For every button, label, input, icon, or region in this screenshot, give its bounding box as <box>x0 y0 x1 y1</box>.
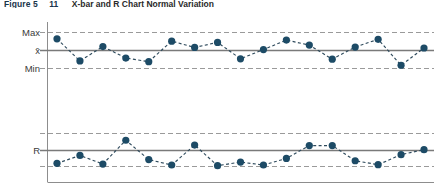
data-point <box>214 39 221 46</box>
data-point <box>306 142 313 149</box>
data-point <box>191 141 198 148</box>
data-point <box>237 55 244 62</box>
data-point <box>352 43 359 50</box>
xbar-series-markers <box>53 35 427 69</box>
data-point <box>122 137 129 144</box>
data-point <box>214 162 221 169</box>
data-point <box>260 161 267 168</box>
data-point <box>283 36 290 43</box>
data-point <box>375 36 382 43</box>
data-point <box>145 58 152 65</box>
xbar-chart-panel: Max x̄ Min <box>22 27 434 74</box>
control-chart-plot: Max x̄ Min R <box>0 0 436 193</box>
xbar-center-label: x̄ <box>35 45 40 56</box>
data-point <box>237 158 244 165</box>
data-point <box>145 156 152 163</box>
data-point <box>420 146 427 153</box>
data-point <box>99 160 106 167</box>
data-point <box>168 38 175 45</box>
r-chart-panel: R <box>33 134 434 170</box>
data-point <box>122 54 129 61</box>
data-point <box>329 142 336 149</box>
data-point <box>76 57 83 64</box>
data-point <box>329 56 336 63</box>
data-point <box>375 161 382 168</box>
data-point <box>397 151 404 158</box>
data-point <box>306 42 313 49</box>
data-point <box>352 157 359 164</box>
data-point <box>53 35 60 42</box>
data-point <box>283 155 290 162</box>
data-point <box>420 44 427 51</box>
r-center-label: R <box>33 145 40 156</box>
r-series-markers <box>53 137 427 170</box>
data-point <box>191 44 198 51</box>
xbar-max-label: Max <box>22 27 40 38</box>
data-point <box>99 43 106 50</box>
data-point <box>168 161 175 168</box>
xbar-min-label: Min <box>25 63 40 74</box>
data-point <box>260 46 267 53</box>
data-point <box>76 152 83 159</box>
figure-container: Figure 5 11 X-bar and R Chart Normal Var… <box>0 0 436 193</box>
data-point <box>397 62 404 69</box>
data-point <box>53 160 60 167</box>
